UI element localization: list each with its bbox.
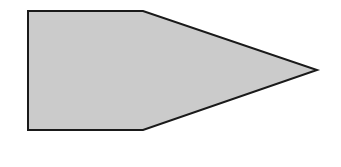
pentagon-arrow-shape (28, 11, 317, 130)
diagram-canvas (0, 0, 341, 167)
